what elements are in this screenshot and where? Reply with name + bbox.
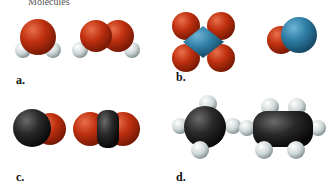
methane-molecule: [172, 95, 241, 159]
panel-label-b: b.: [176, 70, 186, 85]
water-molecule: [15, 19, 61, 58]
molecule-diagram: [0, 0, 334, 188]
hydrogen-peroxide-molecule: [72, 20, 140, 58]
ethane-molecule: [239, 98, 326, 159]
n2o4-molecule: [172, 12, 235, 72]
no-molecule: [267, 17, 317, 54]
co-molecule: [13, 109, 66, 147]
panel-label-a: a.: [16, 73, 25, 88]
panel-label-d: d.: [176, 170, 186, 185]
panel-label-c: c.: [16, 170, 24, 185]
co2-molecule: [73, 110, 140, 148]
